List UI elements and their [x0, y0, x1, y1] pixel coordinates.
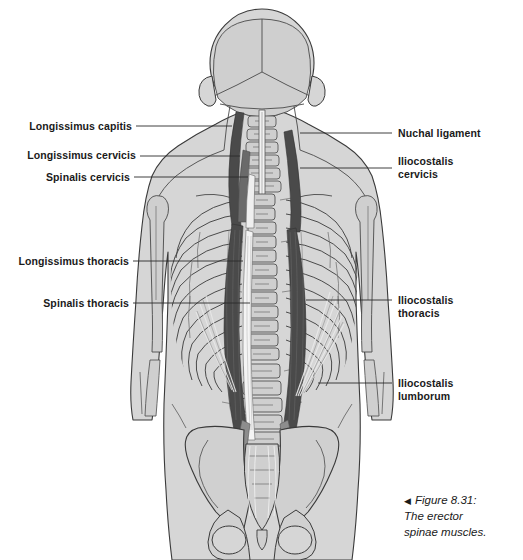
caption-text: Figure 8.31: The erector spinae muscles. [404, 494, 486, 538]
label-iliocostalis-thoracis: Iliocostalis thoracis [398, 294, 518, 319]
label-spinalis-cervicis: Spinalis cervicis [0, 171, 130, 184]
erector-spinae-anatomical-illustration [0, 0, 523, 560]
label-iliocostalis-lumborum: Iliocostalis lumborum [398, 377, 518, 402]
caption-left-arrow-icon: ◀ [404, 496, 411, 506]
label-nuchal-ligament: Nuchal ligament [398, 127, 518, 140]
label-longissimus-thoracis: Longissimus thoracis [0, 255, 129, 268]
figure-caption: ◀Figure 8.31: The erector spinae muscles… [404, 477, 519, 540]
figure-canvas: Longissimus capitis Longissimus cervicis… [0, 0, 523, 560]
nuchal-ligament [259, 110, 265, 196]
label-spinalis-thoracis: Spinalis thoracis [0, 297, 129, 310]
label-longissimus-capitis: Longissimus capitis [0, 120, 132, 133]
pelvis [185, 426, 338, 560]
label-iliocostalis-cervicis: Iliocostalis cervicis [398, 155, 518, 180]
label-longissimus-cervicis: Longissimus cervicis [0, 149, 136, 162]
